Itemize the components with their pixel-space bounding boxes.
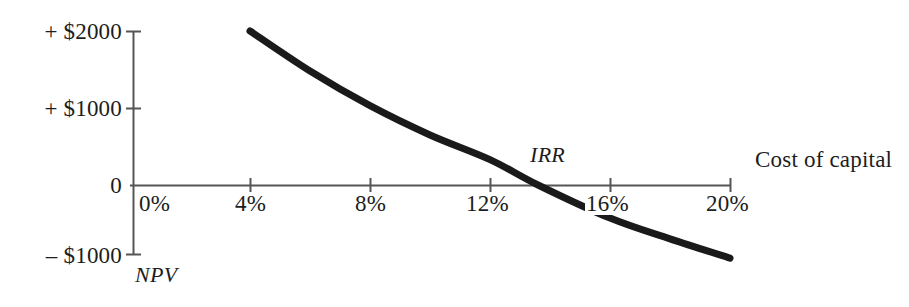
npv-axis-label: NPV (133, 264, 179, 286)
y-axis-label-2000: + $2000 (22, 20, 122, 43)
x-axis-label-20: 20% (705, 192, 750, 215)
y-axis-label-neg1000: – $1000 (22, 244, 122, 267)
x-axis-label-4: 4% (234, 192, 267, 215)
x-axis-label-12: 12% (465, 192, 510, 215)
y-axis-label-1000: + $1000 (22, 97, 122, 120)
y-axis-label-zero: 0 (22, 174, 122, 197)
x-axis-label-8: 8% (354, 192, 387, 215)
npv-curve (250, 31, 730, 258)
npv-profile-chart: + $2000 + $1000 0 – $1000 0% 4% 8% 12% 1… (0, 0, 909, 307)
x-axis-label-16: 16% (585, 192, 630, 215)
irr-label: IRR (528, 144, 567, 166)
cost-of-capital-label: Cost of capital (755, 148, 892, 171)
x-axis-label-0: 0% (138, 192, 171, 215)
